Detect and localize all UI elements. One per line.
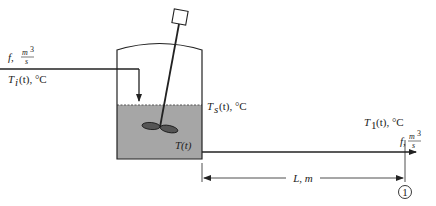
svg-text:m: m: [409, 132, 415, 141]
svg-text:m: m: [22, 48, 28, 57]
process-diagram: 1 f, m 3 s T i (t), °C T s (t), °C T(t) …: [0, 0, 436, 206]
svg-text:3: 3: [30, 45, 34, 54]
svg-text:s: s: [25, 57, 28, 66]
outlet-temp-label: T 1 (t), °C: [364, 116, 404, 131]
dimension-label: L, m: [292, 172, 313, 184]
svg-text:(t), °C: (t), °C: [219, 100, 247, 113]
svg-text:s: s: [412, 141, 415, 150]
svg-text:T: T: [364, 116, 371, 128]
svg-text:T: T: [8, 73, 15, 85]
point-marker-label: 1: [402, 186, 408, 198]
svg-text:i: i: [15, 76, 18, 88]
svg-text:3: 3: [417, 129, 421, 138]
point-marker: 1: [399, 186, 412, 199]
liquid-temp-label: T(t): [175, 139, 192, 152]
svg-text:s: s: [214, 103, 218, 115]
inlet-flow-label: f, m 3 s: [8, 45, 34, 66]
surface-temp-label: T s (t), °C: [207, 100, 247, 115]
svg-text:(t), °C: (t), °C: [19, 73, 47, 86]
svg-text:T: T: [207, 100, 214, 112]
svg-text:f,: f,: [400, 135, 406, 147]
outlet-flow-label: f, m 3 s: [400, 129, 421, 150]
inlet-temp-label: T i (t), °C: [8, 73, 47, 88]
agitator-motor: [172, 9, 188, 25]
svg-text:f,: f,: [8, 51, 14, 63]
svg-text:(t), °C: (t), °C: [376, 116, 404, 129]
